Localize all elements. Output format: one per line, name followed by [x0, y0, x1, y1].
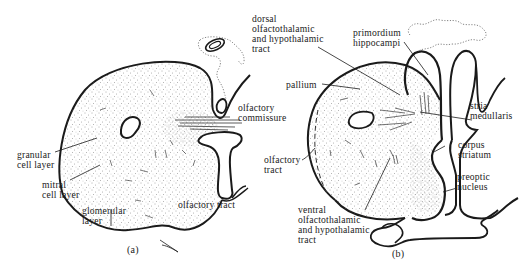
label-pallium: pallium — [286, 80, 317, 90]
label-olfactory-commissure: olfactory commissure — [238, 103, 286, 123]
label-dorsal-olfactothalamic-tract: dorsal olfactothalamic and hypothalamic … — [252, 14, 324, 54]
label-granular-cell-layer: granular cell layer — [17, 150, 54, 170]
label-corpus-striatum: corpus striatum — [458, 140, 491, 160]
label-preoptic-nucleus: preoptic nucleus — [457, 172, 490, 192]
label-ventral-olfactothalamic-tract: ventral olfactothalamic and hypothalamic… — [298, 205, 370, 245]
caption-panel-a: (a) — [127, 245, 139, 255]
label-stria-medullaris: stria medullaris — [470, 101, 513, 121]
caption-panel-b: (b) — [392, 249, 404, 259]
label-olfactory-tract-b: olfactory tract — [264, 155, 300, 175]
label-olfactory-tract-a: olfactory tract — [178, 200, 235, 210]
figure-olfactory-brain-sections: olfactory commissure granular cell layer… — [0, 0, 529, 271]
label-primordium-hippocampi: primordium hippocampi — [353, 28, 401, 48]
label-glomerular-layer: glomerular layer — [82, 206, 126, 226]
label-mitral-cell-layer: mitral cell layer — [42, 180, 79, 200]
